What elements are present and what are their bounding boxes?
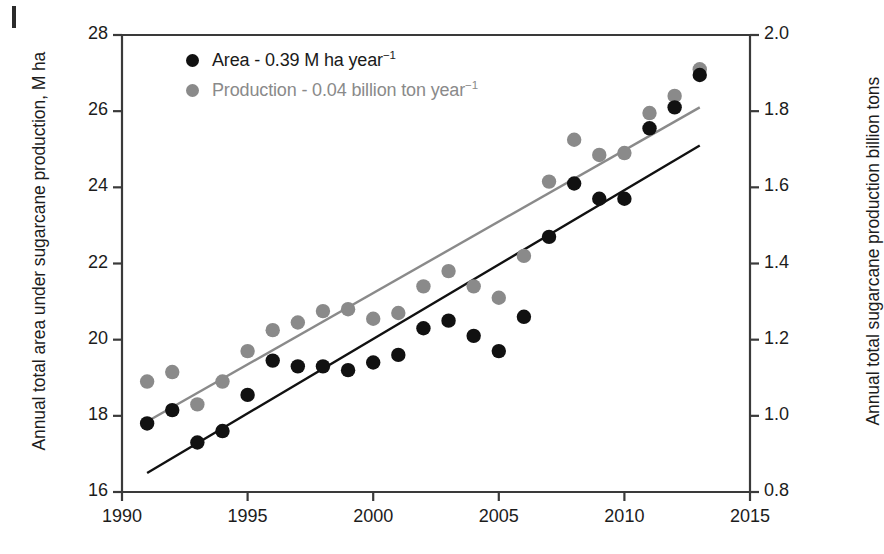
data-point-area [291,359,305,373]
data-point-area [466,329,480,343]
chart-legend: Area - 0.39 M ha year−1 Production - 0.0… [186,45,478,105]
legend-label-production-exponent: −1 [465,79,478,91]
y-axis-left-tick-label: 24 [88,175,108,196]
data-point-production [366,312,380,326]
data-point-area [215,424,229,438]
data-point-production [567,133,581,147]
data-points-layer [140,62,707,450]
x-axis-tick-label: 1995 [208,506,288,527]
y-axis-right-tick-label: 0.8 [764,480,789,501]
data-point-production [642,106,656,120]
data-point-area [140,416,154,430]
data-point-production [416,279,430,293]
legend-marker-production-icon [186,84,199,97]
data-point-area [567,176,581,190]
data-point-production [466,279,480,293]
data-point-area [492,344,506,358]
data-point-production [215,374,229,388]
data-point-production [190,397,204,411]
data-point-area [416,321,430,335]
data-point-production [291,315,305,329]
data-point-production [240,344,254,358]
data-point-production [266,323,280,337]
x-axis-tick-label: 2015 [710,506,790,527]
legend-item-area: Area - 0.39 M ha year−1 [186,45,478,75]
y-axis-right-tick-label: 2.0 [764,23,789,44]
data-point-production [165,365,179,379]
x-axis-tick-label: 1990 [82,506,162,527]
data-point-production [316,304,330,318]
data-point-area [642,121,656,135]
data-point-area [240,388,254,402]
trendline-production [147,107,700,421]
y-axis-left-tick-label: 22 [88,252,108,273]
legend-label-area: Area - 0.39 M ha year−1 [212,49,396,71]
y-axis-right-tick-label: 1.2 [764,328,789,349]
data-point-area [667,100,681,114]
y-axis-left-tick-label: 20 [88,328,108,349]
legend-label-area-exponent: −1 [383,49,396,61]
legend-item-production: Production - 0.04 billion ton year−1 [186,75,478,105]
y-axis-left-tick-label: 16 [88,480,108,501]
x-axis-tick-label: 2010 [584,506,664,527]
data-point-area [517,310,531,324]
legend-label-area-text: Area - 0.39 M ha year [212,50,383,70]
data-point-area [391,348,405,362]
y-axis-left-tick-label: 26 [88,99,108,120]
trendline-area [147,145,700,473]
data-point-area [190,435,204,449]
data-point-area [542,230,556,244]
data-point-production [341,302,355,316]
y-axis-right-tick-label: 1.0 [764,404,789,425]
y-axis-left-tick-label: 28 [88,23,108,44]
data-point-area [592,192,606,206]
legend-label-production: Production - 0.04 billion ton year−1 [212,79,478,101]
data-point-production [617,146,631,160]
data-point-area [341,363,355,377]
y-axis-left-title: Annual total area under sugarcane produc… [28,16,50,486]
data-point-production [391,306,405,320]
legend-label-production-text: Production - 0.04 billion ton year [212,80,465,100]
data-point-area [366,355,380,369]
x-axis-tick-label: 2005 [459,506,539,527]
legend-marker-area-icon [186,54,199,67]
data-point-production [441,264,455,278]
data-point-production [517,249,531,263]
data-point-production [140,374,154,388]
data-point-area [693,68,707,82]
y-axis-left-tick-label: 18 [88,404,108,425]
data-point-production [542,174,556,188]
data-point-area [266,353,280,367]
data-point-production [492,291,506,305]
data-point-area [165,403,179,417]
data-point-area [617,192,631,206]
y-axis-right-tick-label: 1.6 [764,175,789,196]
x-axis-tick-label: 2000 [333,506,413,527]
y-axis-right-tick-label: 1.4 [764,252,789,273]
data-point-area [316,359,330,373]
y-axis-right-tick-label: 1.8 [764,99,789,120]
y-axis-right-title: Annual total sugarcane production billio… [862,16,884,486]
data-point-area [441,313,455,327]
data-point-production [592,148,606,162]
